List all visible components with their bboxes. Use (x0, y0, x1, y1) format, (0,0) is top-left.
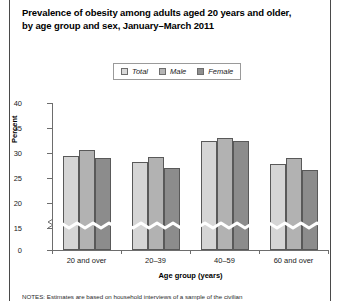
y-axis-title: Percent (10, 115, 19, 143)
bar-female-1 (95, 158, 111, 250)
legend-label-total: Total (132, 67, 148, 76)
legend-item-male: Male (159, 67, 186, 76)
bar-male-4 (286, 158, 302, 250)
chart-title: Prevalence of obesity among adults aged … (22, 6, 322, 32)
y-tick-label-15: 15 (0, 224, 22, 233)
bar-total-4 (270, 164, 286, 250)
bar-male-1 (79, 150, 95, 250)
figure: Prevalence of obesity among adults aged … (0, 0, 344, 301)
x-tick (52, 250, 53, 254)
legend-label-female: Female (208, 67, 233, 76)
legend-swatch-male-icon (159, 68, 166, 75)
bar-group (190, 103, 259, 250)
axis-break-marker-icon (46, 218, 59, 231)
y-tick-label-30: 30 (0, 149, 22, 158)
bar-female-3 (233, 141, 249, 250)
x-axis-label: 60 and over (259, 256, 328, 265)
chart-title-line1: Prevalence of obesity among adults aged … (22, 7, 291, 18)
x-axis-title: Age group (years) (52, 271, 329, 280)
bar-group (259, 103, 328, 250)
x-axis-label: 20 and over (52, 256, 121, 265)
x-tick (121, 250, 122, 254)
bar-group (52, 103, 121, 250)
bar-total-2 (132, 162, 148, 251)
legend-item-total: Total (121, 67, 148, 76)
legend-swatch-total-icon (121, 68, 128, 75)
x-tick (259, 250, 260, 254)
chart-note: NOTES: Estimates are based on household … (22, 293, 322, 301)
page-rule-right (330, 0, 331, 301)
bar-male-3 (217, 138, 233, 250)
plot-area: 0152025303540 Percent 20 and over20–3940… (52, 103, 328, 250)
y-tick-label-20: 20 (0, 199, 22, 208)
bar-female-4 (302, 170, 318, 250)
x-axis-label: 20–39 (121, 256, 190, 265)
legend-swatch-female-icon (197, 68, 204, 75)
bar-total-3 (201, 141, 217, 251)
chart-legend: Total Male Female (113, 63, 241, 80)
legend-item-female: Female (197, 67, 233, 76)
y-tick-label-40: 40 (0, 99, 22, 108)
x-tick (328, 250, 329, 254)
bar-female-2 (164, 168, 180, 250)
chart-title-line2: by age group and sex, January–March 2011 (22, 19, 322, 32)
legend-label-male: Male (170, 67, 186, 76)
bar-total-1 (63, 156, 79, 251)
y-tick-label-25: 25 (0, 174, 22, 183)
x-tick (190, 250, 191, 254)
y-tick-label-0: 0 (0, 246, 22, 255)
bar-male-2 (148, 157, 164, 251)
x-axis-label: 40–59 (190, 256, 259, 265)
bar-group (121, 103, 190, 250)
